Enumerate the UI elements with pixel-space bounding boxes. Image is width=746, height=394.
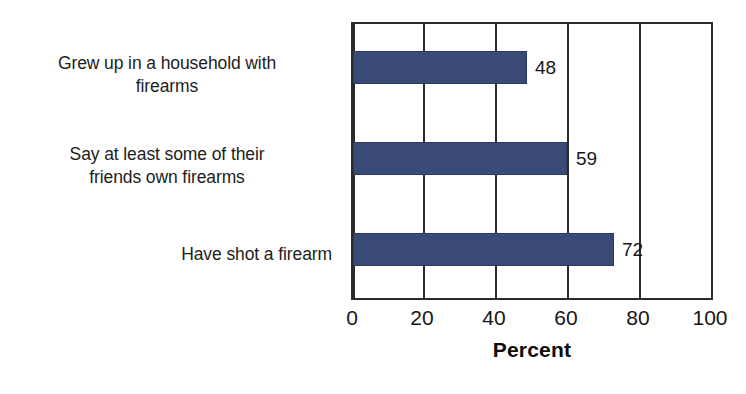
bar-value-1: 59 xyxy=(576,149,597,168)
category-label-1-line-2: friends own firearms xyxy=(2,166,332,189)
category-label-0: Grew up in a household with firearms xyxy=(2,52,332,98)
bar-1 xyxy=(353,142,567,175)
category-label-2: Have shot a firearm xyxy=(2,243,332,266)
bar-value-2: 72 xyxy=(622,240,643,259)
bar-value-0: 48 xyxy=(535,58,556,77)
x-axis-ticks: 0 20 40 60 80 100 xyxy=(351,306,713,334)
category-label-2-line-1: Have shot a firearm xyxy=(181,244,332,264)
category-label-1-line-1: Say at least some of their xyxy=(70,144,265,164)
x-tick-80: 80 xyxy=(626,306,649,330)
category-label-0-line-1: Grew up in a household with xyxy=(58,53,276,73)
plot-area: 48 59 72 xyxy=(351,22,713,300)
category-label-group: Grew up in a household with firearms Say… xyxy=(0,22,340,300)
x-tick-20: 20 xyxy=(410,306,433,330)
category-label-1: Say at least some of their friends own f… xyxy=(2,143,332,189)
x-tick-100: 100 xyxy=(692,306,727,330)
bar-0 xyxy=(353,51,527,84)
bar-chart: Grew up in a household with firearms Say… xyxy=(0,0,746,394)
category-label-0-line-2: firearms xyxy=(2,75,332,98)
gridline-100 xyxy=(711,24,713,298)
x-tick-60: 60 xyxy=(554,306,577,330)
bar-2 xyxy=(353,233,614,266)
x-tick-40: 40 xyxy=(482,306,505,330)
x-tick-0: 0 xyxy=(346,306,358,330)
x-axis-title: Percent xyxy=(351,338,713,362)
